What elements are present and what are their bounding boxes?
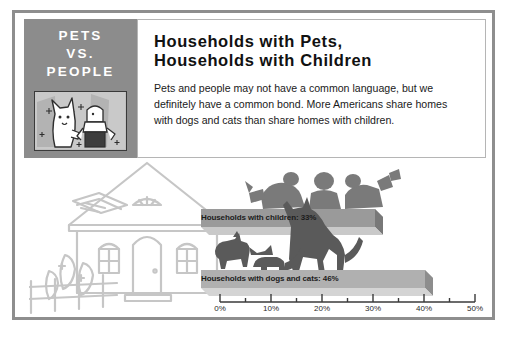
children-silhouettes [245,169,401,209]
dog-and-child-illustration [34,91,127,151]
x-tick-20: 20% [307,304,337,313]
panel-title-line-2: VS. [24,45,137,63]
headline-line-2: Households with Children [154,51,469,70]
article-body: Pets and people may not have a common la… [154,80,469,128]
bar-label-children: Households with children: 33% [201,213,316,222]
x-tick-30: 30% [358,304,388,313]
infographic-frame: PETS VS. PEOPLE [12,10,495,320]
panel-title-line-1: PETS [24,27,137,45]
x-tick-50: 50% [460,304,490,313]
page-title: Households with Pets, Households with Ch… [154,32,469,70]
x-tick-10: 10% [256,304,286,313]
x-tick-0: 0% [205,304,235,313]
article-text-box: Households with Pets, Households with Ch… [137,19,486,158]
panel-title-line-3: PEOPLE [24,63,137,81]
headline-line-1: Households with Pets, [154,32,469,51]
chart-graphics [193,163,493,318]
bar-chart: Households with children: 33% Households… [193,163,493,318]
pets-vs-people-panel: PETS VS. PEOPLE [24,19,137,158]
x-tick-40: 40% [409,304,439,313]
panel-title: PETS VS. PEOPLE [24,27,137,81]
bar-label-pets: Households with dogs and cats: 46% [201,274,339,283]
